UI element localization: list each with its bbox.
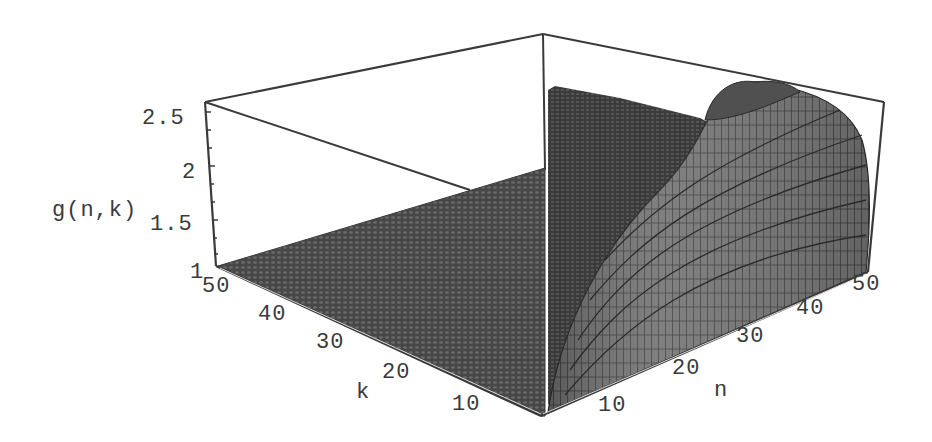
z-tick-2-5: 2.5 (142, 108, 185, 130)
k-tick-40: 40 (258, 304, 286, 326)
k-tick-50: 50 (202, 276, 230, 298)
n-tick-30: 30 (736, 326, 764, 348)
z-axis-title: g(n,k) (52, 200, 137, 222)
k-tick-30: 30 (316, 332, 344, 354)
n-tick-50: 50 (852, 274, 880, 296)
n-axis-title: n (714, 380, 728, 402)
surface-plot (0, 0, 932, 442)
n-tick-40: 40 (796, 298, 824, 320)
z-tick-2: 2 (182, 162, 196, 184)
n-tick-20: 20 (672, 358, 700, 380)
k-tick-20: 20 (382, 362, 410, 384)
z-tick-1-5: 1.5 (150, 214, 193, 236)
n-tick-10: 10 (598, 395, 626, 417)
k-axis-title: k (356, 382, 370, 404)
k-tick-10: 10 (452, 394, 480, 416)
